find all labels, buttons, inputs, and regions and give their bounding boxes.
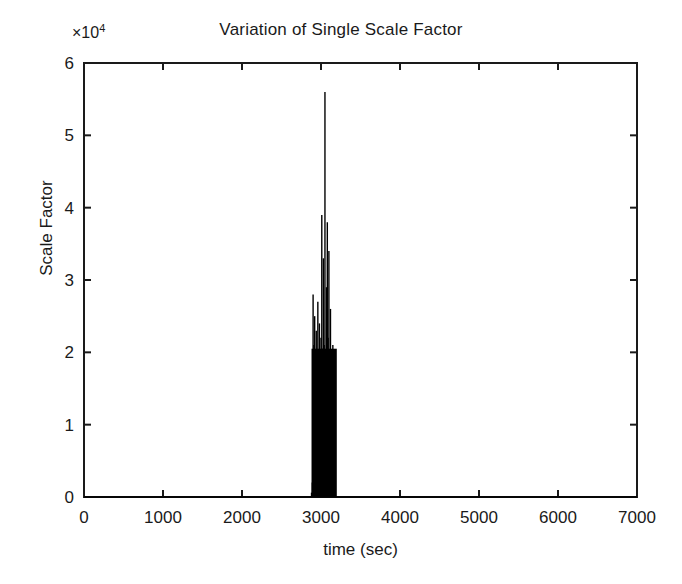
y-tick-label: 4 [65,199,74,218]
x-tick-label: 3000 [302,508,340,527]
plot-frame [84,63,637,497]
y-tick-label: 5 [65,126,74,145]
x-axis-tick-labels: 01000200030004000500060007000 [79,508,656,527]
figure-canvas: ×104 Variation of Single Scale Factor Sc… [0,0,682,584]
y-tick-label: 1 [65,416,74,435]
x-tick-label: 1000 [144,508,182,527]
y-tick-label: 3 [65,271,74,290]
x-tick-label: 6000 [539,508,577,527]
y-tick-label: 6 [65,54,74,73]
x-tick-label: 7000 [618,508,656,527]
y-tick-label: 0 [65,488,74,507]
x-tick-label: 4000 [381,508,419,527]
x-tick-label: 5000 [460,508,498,527]
plot-area: 01000200030004000500060007000 0123456 [0,0,682,584]
x-tick-label: 0 [79,508,88,527]
y-axis-tick-labels: 0123456 [65,54,74,507]
y-tick-label: 2 [65,343,74,362]
x-tick-label: 2000 [223,508,261,527]
